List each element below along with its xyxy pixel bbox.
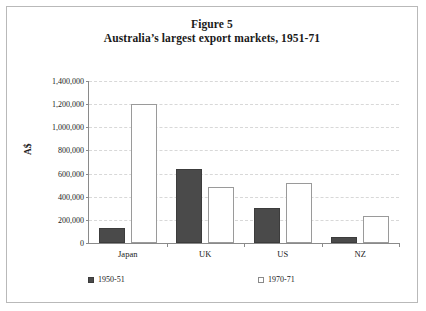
x-axis-category-label: NZ: [322, 249, 400, 259]
legend-entry-1950-51: 1950-51: [88, 275, 125, 284]
figure-title: Australia’s largest export markets, 1951…: [7, 31, 417, 45]
plot-area: 0200,000400,000600,000800,0001,000,0001,…: [88, 81, 399, 244]
x-axis-category-label: US: [244, 249, 322, 259]
bar-group-nz: NZ: [322, 81, 400, 243]
bar-group-uk: UK: [167, 81, 245, 243]
legend-entry-1970-71: 1970-71: [258, 275, 295, 284]
y-axis-tick-label: 600,000: [58, 169, 84, 178]
legend-label: 1950-51: [98, 275, 125, 284]
bar-us-1950-51: [254, 208, 280, 243]
y-axis-tick-mark: [86, 243, 89, 244]
figure-number: Figure 5: [7, 17, 417, 31]
y-axis-label: A$: [23, 143, 33, 155]
y-axis-tick-label: 800,000: [58, 146, 84, 155]
x-axis-tick-mark: [244, 243, 245, 247]
x-axis-category-label: UK: [167, 249, 245, 259]
y-axis-tick-label: 1,200,000: [52, 100, 84, 109]
x-axis-tick-mark: [167, 243, 168, 247]
bar-group-japan: Japan: [89, 81, 167, 243]
x-axis-tick-mark: [399, 243, 400, 247]
bar-japan-1950-51: [99, 228, 125, 243]
y-axis-tick-label: 200,000: [58, 215, 84, 224]
y-axis-tick-label: 1,000,000: [52, 123, 84, 132]
legend-swatch-filled-square-icon: [88, 277, 94, 283]
bar-nz-1970-71: [363, 216, 389, 243]
y-axis-tick-label: 400,000: [58, 192, 84, 201]
bar-uk-1970-71: [208, 187, 234, 243]
x-axis-category-label: Japan: [89, 249, 167, 259]
bar-us-1970-71: [286, 183, 312, 243]
bar-japan-1970-71: [131, 104, 157, 243]
legend-label: 1970-71: [268, 275, 295, 284]
figure-frame: Figure 5 Australia’s largest export mark…: [6, 6, 418, 303]
x-axis-tick-mark: [322, 243, 323, 247]
legend-swatch-hollow-square-icon: [258, 277, 264, 283]
bar-uk-1950-51: [176, 169, 202, 243]
figure-title-block: Figure 5 Australia’s largest export mark…: [7, 17, 417, 46]
y-axis-tick-label: 1,400,000: [52, 77, 84, 86]
chart-legend: 1950-51 1970-71: [88, 275, 399, 289]
y-axis-tick-label: 0: [80, 239, 84, 248]
bar-nz-1950-51: [331, 237, 357, 243]
bar-group-us: US: [244, 81, 322, 243]
